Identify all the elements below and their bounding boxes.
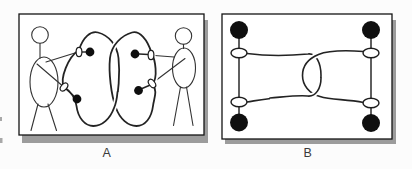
ring-icon-top-left — [231, 48, 247, 58]
node-icon-top-left — [230, 21, 248, 39]
node-icon-bottom-right — [362, 114, 380, 132]
knot-dot-icon — [73, 95, 82, 104]
ring-icon-bottom-right — [363, 98, 379, 108]
node-icon-bottom-left — [230, 114, 248, 132]
panel-a-label: A — [103, 146, 112, 160]
knot-dot-icon — [131, 50, 140, 59]
node-icon-top-right — [362, 21, 380, 39]
diagram-svg: A B — [0, 0, 412, 169]
knot-tie — [139, 54, 149, 55]
ring-icon-top-right — [363, 48, 379, 58]
ring-icon-bottom-left — [231, 97, 247, 107]
panel-b: B — [222, 14, 396, 160]
panel-a: A — [19, 14, 208, 160]
figure-canvas: A B — [0, 0, 412, 169]
knot-dot-icon — [134, 86, 143, 95]
scan-artifact — [0, 138, 3, 143]
knot-dot-icon — [86, 48, 95, 57]
wrist-ring-icon — [148, 50, 154, 59]
scan-artifact — [0, 117, 2, 121]
wrist-ring-icon — [76, 47, 82, 56]
panel-b-label: B — [304, 146, 313, 160]
